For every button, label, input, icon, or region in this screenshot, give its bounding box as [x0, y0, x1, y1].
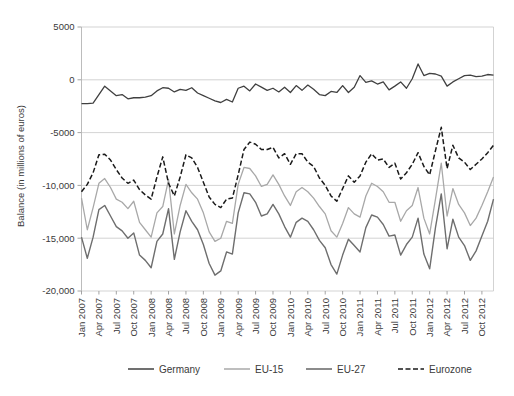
x-tick-label: Jan 2007: [76, 298, 87, 337]
x-tick-label: Apr 2011: [372, 298, 383, 336]
y-tick-label: 0: [69, 74, 74, 85]
x-tick-label: Apr 2012: [441, 298, 452, 337]
y-tick-label: -20,000: [42, 285, 74, 296]
x-tick-label: Jan 2008: [146, 298, 157, 337]
line-chart: Balance (in millions of euros) 50000-500…: [0, 0, 514, 396]
legend-label-eurozone: Eurozone: [429, 364, 472, 375]
legend-label-germany: Germany: [159, 364, 200, 375]
x-tick-label: Jan 2011: [354, 298, 365, 336]
x-tick-label: Oct 2009: [267, 298, 278, 337]
x-tick-label: Oct 2008: [198, 298, 209, 337]
x-tick-label: Oct 2012: [476, 298, 487, 337]
x-tick-label: Apr 2009: [233, 298, 244, 337]
x-tick-label: Jul 2012: [459, 298, 470, 334]
x-tick-label: Oct 2007: [128, 298, 139, 337]
y-tick-label: -5000: [50, 127, 74, 138]
x-tick-label: Jul 2011: [389, 298, 400, 333]
legend-label-eu15: EU-15: [255, 364, 284, 375]
x-tick-label: Jul 2007: [111, 298, 122, 334]
y-axis-title: Balance (in millions of euros): [15, 105, 26, 227]
x-tick-label: Jan 2009: [215, 298, 226, 337]
x-tick-label: Jul 2009: [250, 298, 261, 334]
x-tick-label: Jul 2008: [180, 298, 191, 334]
y-tick-label: 5000: [53, 21, 74, 32]
x-tick-label: Jan 2010: [285, 298, 296, 337]
x-tick-label: Jan 2012: [424, 298, 435, 337]
chart-container: Balance (in millions of euros) 50000-500…: [0, 0, 514, 396]
legend-label-eu27: EU-27: [337, 364, 366, 375]
x-tick-label: Jul 2010: [320, 298, 331, 334]
y-tick-label: -10,000: [42, 180, 74, 191]
y-tick-label: -15,000: [42, 233, 74, 244]
x-tick-label: Oct 2010: [337, 298, 348, 337]
x-tick-label: Oct 2011: [407, 298, 418, 336]
x-tick-label: Apr 2010: [302, 298, 313, 337]
x-tick-label: Apr 2007: [93, 298, 104, 337]
x-tick-label: Apr 2008: [163, 298, 174, 337]
